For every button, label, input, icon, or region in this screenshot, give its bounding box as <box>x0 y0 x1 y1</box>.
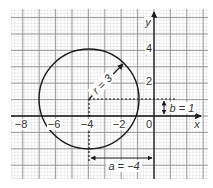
x-tick-label: −8 <box>15 118 28 130</box>
x-tick-label: −6 <box>48 118 61 130</box>
coordinate-diagram: −8 −6 −4 −2 0 2 4 y x r = 3 b = 1 a = −4 <box>0 0 213 188</box>
b-label: b = 1 <box>170 102 195 114</box>
a-label: a = −4 <box>108 160 139 172</box>
grid-paper <box>11 9 208 179</box>
x-axis-label: x <box>193 118 200 130</box>
x-tick-label: −2 <box>113 118 126 130</box>
x-tick-label: −4 <box>81 118 94 130</box>
x-tick-label: 0 <box>146 118 152 130</box>
y-tick-label: 4 <box>146 42 152 54</box>
y-tick-label: 2 <box>146 75 152 87</box>
